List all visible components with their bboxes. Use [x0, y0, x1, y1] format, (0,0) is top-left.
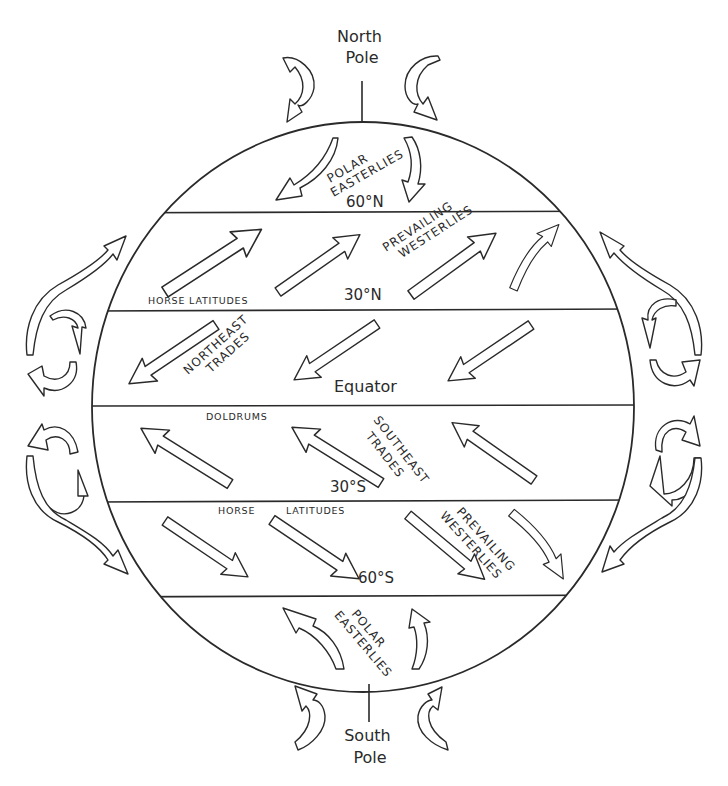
curved-arrow-icon [405, 56, 440, 120]
latitude-label-60s: 60°S [358, 569, 394, 587]
circular-arrow-icon [28, 424, 78, 454]
curved-arrow-icon [295, 686, 325, 750]
horse-latitudes-north-label: HORSE LATITUDES [148, 295, 248, 306]
global-wind-diagram: North Pole South Pole POLAR EASTERLIES 6… [0, 0, 728, 786]
south-pole-label: South Pole [344, 726, 396, 767]
latitude-label-30s: 30°S [330, 478, 366, 496]
latitude-label-30n: 30°N [344, 286, 382, 304]
circular-arrow-icon [656, 416, 700, 452]
circular-arrow-icon [642, 299, 676, 348]
curved-arrow-icon [418, 687, 448, 750]
north-pole-label: North Pole [337, 27, 387, 67]
curved-arrow-icon [283, 58, 314, 122]
latitude-label-60n: 60°N [346, 193, 384, 211]
equator-line [80, 405, 650, 406]
equator-label: Equator [334, 377, 397, 396]
doldrums-label: DOLDRUMS [206, 411, 268, 422]
circular-arrow-icon [650, 360, 700, 386]
circular-arrow-icon [50, 310, 86, 354]
circular-arrow-icon [28, 362, 77, 396]
circular-arrow-icon [50, 470, 88, 514]
